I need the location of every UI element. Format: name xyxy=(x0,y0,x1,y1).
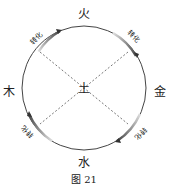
label-earth: 土 xyxy=(78,82,90,96)
label-wood: 木 xyxy=(3,85,15,99)
transform-label-bottom-left: 转化 xyxy=(19,124,35,140)
label-fire: 火 xyxy=(78,7,90,21)
five-elements-diagram: 火 金 水 木 土 转化 转化 转化 转化 图 21 xyxy=(0,0,169,185)
transform-label-top-right: 转化 xyxy=(126,28,142,44)
label-metal: 金 xyxy=(154,84,166,99)
figure-caption: 图 21 xyxy=(71,174,97,185)
transform-label-bottom-right: 转化 xyxy=(133,126,149,142)
transform-label-top-left: 转化 xyxy=(28,30,44,46)
label-water: 水 xyxy=(78,156,90,170)
